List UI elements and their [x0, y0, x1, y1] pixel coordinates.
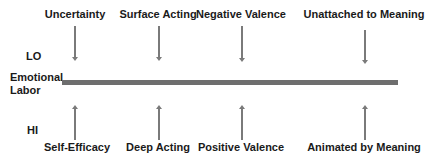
axis-label-line2: Labor	[10, 84, 63, 97]
top-factor-surface-acting: Surface Acting	[119, 8, 196, 20]
axis-label-line1: Emotional	[10, 71, 63, 84]
down-arrow-icon	[158, 26, 160, 58]
emotional-labor-label: Emotional Labor	[10, 71, 63, 97]
up-arrow-icon	[158, 108, 160, 140]
down-arrow-icon	[74, 26, 76, 58]
up-arrow-icon	[364, 108, 366, 140]
up-arrow-icon	[74, 108, 76, 140]
emotional-labor-continuum-bar	[62, 80, 398, 85]
top-factor-unattached-to-meaning: Unattached to Meaning	[303, 8, 424, 20]
bottom-factor-self-efficacy: Self-Efficacy	[44, 141, 110, 153]
top-factor-negative-valence: Negative Valence	[196, 8, 286, 20]
bottom-factor-positive-valence: Positive Valence	[198, 141, 284, 153]
down-arrow-icon	[241, 26, 243, 59]
lo-label: LO	[26, 50, 41, 62]
bottom-factor-animated-by-meaning: Animated by Meaning	[307, 141, 421, 153]
up-arrow-icon	[241, 108, 243, 140]
down-arrow-icon	[364, 30, 366, 61]
hi-label: HI	[27, 124, 38, 136]
top-factor-uncertainty: Uncertainty	[45, 8, 106, 20]
bottom-factor-deep-acting: Deep Acting	[126, 141, 190, 153]
